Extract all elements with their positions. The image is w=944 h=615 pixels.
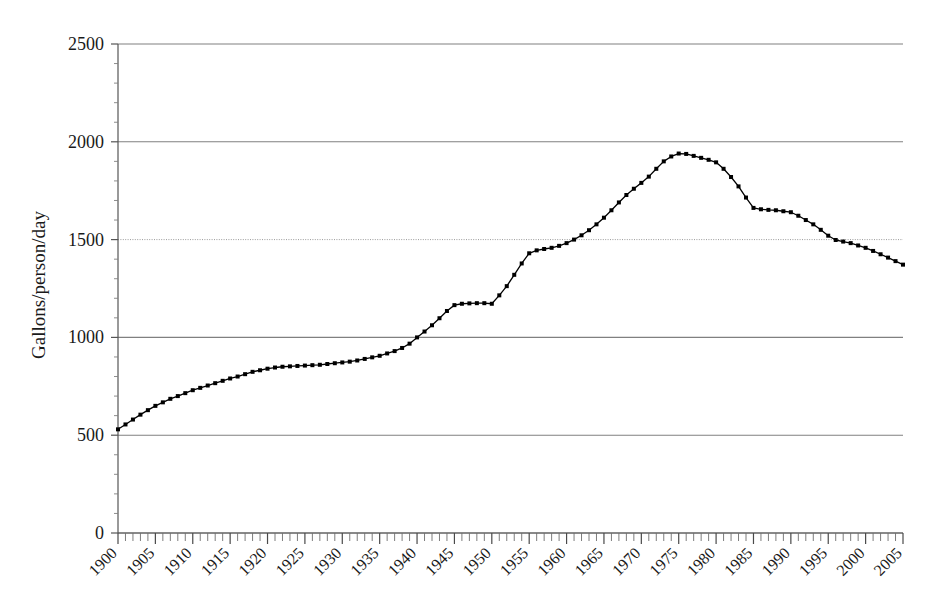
x-tick-label: 2000 [833, 544, 868, 579]
data-point-marker [475, 301, 479, 305]
x-tick-label: 1910 [160, 544, 195, 579]
x-tick-label: 1995 [796, 544, 831, 579]
data-point-marker [198, 386, 202, 390]
data-point-marker [467, 301, 471, 305]
data-point-marker [841, 240, 845, 244]
data-point-marker [393, 349, 397, 353]
data-point-marker [116, 427, 120, 431]
data-point-marker [221, 379, 225, 383]
data-point-marker [266, 367, 270, 371]
data-point-marker [340, 360, 344, 364]
y-tick-label: 2500 [68, 34, 104, 54]
y-axis [111, 44, 118, 533]
x-tick-label: 1970 [609, 544, 644, 579]
data-point-marker [744, 196, 748, 200]
y-tick-label: 2000 [68, 132, 104, 152]
data-point-marker [408, 342, 412, 346]
data-point-marker [258, 368, 262, 372]
data-point-marker [318, 363, 322, 367]
data-point-marker [153, 404, 157, 408]
data-point-marker [737, 184, 741, 188]
data-point-marker [415, 335, 419, 339]
data-point-marker [348, 360, 352, 364]
data-point-marker [692, 154, 696, 158]
series-polyline [118, 154, 903, 430]
data-point-marker [864, 246, 868, 250]
data-point-marker [729, 175, 733, 179]
data-point-marker [594, 222, 598, 226]
data-point-marker [251, 370, 255, 374]
data-point-marker [684, 152, 688, 156]
data-point-marker [460, 302, 464, 306]
data-point-marker [161, 400, 165, 404]
data-point-marker [363, 357, 367, 361]
data-point-marker [759, 207, 763, 211]
x-tick-label: 1930 [310, 544, 345, 579]
data-point-marker [677, 152, 681, 156]
x-tick-label: 2005 [870, 544, 905, 579]
data-point-marker [766, 208, 770, 212]
data-point-marker [722, 167, 726, 171]
x-tick-label: 1925 [272, 544, 307, 579]
data-point-marker [819, 228, 823, 232]
data-point-marker [206, 384, 210, 388]
data-point-marker [662, 159, 666, 163]
y-tick-label: 0 [95, 523, 104, 543]
data-point-marker [295, 364, 299, 368]
x-tick-label: 1965 [571, 544, 606, 579]
data-point-marker [572, 238, 576, 242]
x-tick-label: 1935 [347, 544, 382, 579]
y-tick-label: 1500 [68, 230, 104, 250]
x-tick-label: 1945 [422, 544, 457, 579]
data-point-marker [370, 355, 374, 359]
data-point-marker [437, 316, 441, 320]
x-tick-label: 1980 [684, 544, 719, 579]
data-point-marker [228, 376, 232, 380]
data-point-marker [423, 330, 427, 334]
data-point-marker [804, 218, 808, 222]
data-point-marker [826, 234, 830, 238]
chart-container: 05001000150020002500 1900190519101915192… [0, 0, 944, 615]
data-point-marker [288, 364, 292, 368]
x-axis [118, 533, 903, 544]
data-point-marker [669, 154, 673, 158]
data-point-marker [609, 208, 613, 212]
gridlines [118, 44, 903, 533]
x-tick-label: 1960 [534, 544, 569, 579]
data-point-marker [482, 301, 486, 305]
data-point-marker [191, 388, 195, 392]
data-point-marker [385, 351, 389, 355]
data-point-marker [333, 361, 337, 365]
data-point-marker [243, 372, 247, 376]
data-point-marker [714, 160, 718, 164]
data-point-marker [520, 261, 524, 265]
data-point-marker [550, 246, 554, 250]
data-point-marker [871, 249, 875, 253]
data-point-marker [378, 354, 382, 358]
data-point-marker [849, 241, 853, 245]
x-tick-label: 1900 [85, 544, 120, 579]
x-tick-label: 1990 [758, 544, 793, 579]
data-point-marker [176, 394, 180, 398]
data-point-marker [280, 365, 284, 369]
data-point-marker [303, 364, 307, 368]
data-point-marker [856, 243, 860, 247]
data-point-marker [497, 293, 501, 297]
data-point-marker [587, 228, 591, 232]
data-point-marker [325, 362, 329, 366]
data-point-marker [774, 208, 778, 212]
data-point-marker [894, 259, 898, 263]
x-axis-tick-labels: 1900190519101915192019251930193519401945… [85, 544, 905, 579]
data-point-marker [811, 222, 815, 226]
data-point-marker [138, 413, 142, 417]
data-point-marker [602, 216, 606, 220]
data-point-marker [886, 256, 890, 260]
x-tick-label: 1915 [198, 544, 233, 579]
data-point-marker [505, 284, 509, 288]
data-point-marker [400, 346, 404, 350]
data-point-marker [624, 193, 628, 197]
data-point-marker [834, 238, 838, 242]
data-point-markers [116, 152, 905, 432]
data-point-marker [273, 366, 277, 370]
data-point-marker [789, 210, 793, 214]
